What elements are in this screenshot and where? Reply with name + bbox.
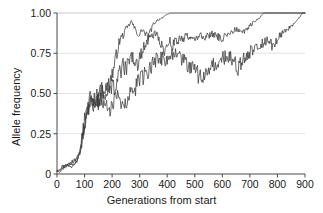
xtick-label-300: 300	[126, 179, 154, 190]
x-axis-label: Generations from start	[0, 195, 323, 206]
gridlines	[57, 13, 305, 134]
xtick-label-800: 800	[263, 179, 291, 190]
allele-frequency-chart: 1.00 0.75 0.50 0.25 0 0 100 200 300 400 …	[0, 0, 323, 213]
ytick-label-0.25: 0.25	[20, 129, 51, 140]
ytick-label-0.50: 0.50	[20, 88, 51, 99]
xtick-label-100: 100	[71, 179, 99, 190]
ytick-label-0.75: 0.75	[20, 48, 51, 59]
x-axis-ticks	[57, 174, 305, 178]
series-line-replicate-1	[57, 13, 305, 171]
series-layer	[57, 13, 305, 172]
xtick-label-200: 200	[98, 179, 126, 190]
xtick-label-0: 0	[43, 179, 71, 190]
xtick-label-600: 600	[208, 179, 236, 190]
y-axis-label: Allele frequency	[11, 68, 22, 146]
xtick-label-900: 900	[291, 179, 319, 190]
y-axis-ticks	[54, 13, 58, 174]
series-line-replicate-2	[57, 13, 305, 171]
ytick-label-0: 0	[20, 169, 51, 180]
ytick-label-1.00: 1.00	[20, 8, 51, 19]
xtick-label-400: 400	[153, 179, 181, 190]
xtick-label-700: 700	[236, 179, 264, 190]
xtick-label-500: 500	[181, 179, 209, 190]
